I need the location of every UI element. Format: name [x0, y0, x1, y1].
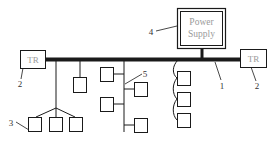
callout-leader-2-left — [21, 68, 23, 79]
power-supply-label-line2: Supply — [188, 29, 215, 39]
callout-4: 4 — [149, 27, 154, 37]
tree-branch — [101, 60, 148, 133]
callout-3: 3 — [9, 118, 14, 128]
single-drop-branch — [74, 60, 87, 93]
star-branch — [29, 60, 83, 132]
callout-5: 5 — [143, 69, 148, 79]
daisy-chain-branch — [173, 60, 190, 128]
terminator-right-label: TR — [248, 54, 260, 64]
callout-2-right: 2 — [255, 81, 260, 91]
callout-leader-3 — [16, 122, 29, 130]
callout-leader-4 — [156, 26, 177, 31]
bus-topology-diagram: Power Supply TR TR 4 2 2 1 3 5 — [0, 0, 280, 151]
terminator-left-label: TR — [27, 55, 39, 65]
callout-leader-1 — [215, 62, 221, 80]
power-supply-label-line1: Power — [189, 17, 214, 27]
callout-2-left: 2 — [18, 79, 23, 89]
callout-1: 1 — [220, 81, 225, 91]
callout-leader-2-right — [251, 67, 256, 81]
